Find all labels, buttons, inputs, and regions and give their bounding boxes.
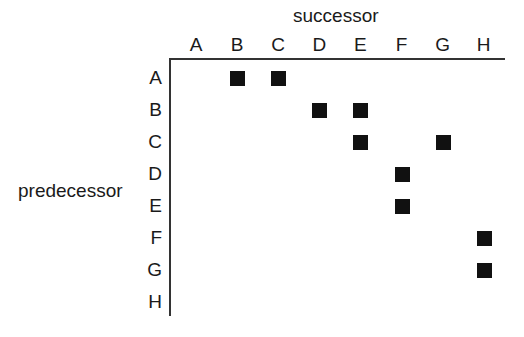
edge-mark-e-f: [395, 199, 410, 214]
left-axis-line: [169, 58, 171, 316]
row-header-a: A: [140, 67, 162, 89]
column-header-e: E: [345, 34, 375, 56]
edge-mark-c-g: [436, 135, 451, 150]
column-header-f: F: [387, 34, 417, 56]
edge-mark-a-c: [271, 71, 286, 86]
column-header-h: H: [469, 34, 499, 56]
successor-axis-label: successor: [293, 5, 379, 27]
row-header-d: D: [140, 163, 162, 185]
top-axis-line: [169, 58, 505, 60]
edge-mark-f-h: [477, 231, 492, 246]
row-header-f: F: [140, 227, 162, 249]
column-header-b: B: [222, 34, 252, 56]
row-header-b: B: [140, 99, 162, 121]
row-header-e: E: [140, 195, 162, 217]
column-header-c: C: [263, 34, 293, 56]
row-header-h: H: [140, 291, 162, 313]
edge-mark-b-e: [353, 103, 368, 118]
row-header-c: C: [140, 131, 162, 153]
column-header-a: A: [181, 34, 211, 56]
edge-mark-c-e: [353, 135, 368, 150]
column-header-d: D: [304, 34, 334, 56]
edge-mark-a-b: [230, 71, 245, 86]
edge-mark-g-h: [477, 263, 492, 278]
edge-mark-d-f: [395, 167, 410, 182]
edge-mark-b-d: [312, 103, 327, 118]
row-header-g: G: [140, 259, 162, 281]
column-header-g: G: [428, 34, 458, 56]
predecessor-axis-label: predecessor: [18, 180, 123, 202]
